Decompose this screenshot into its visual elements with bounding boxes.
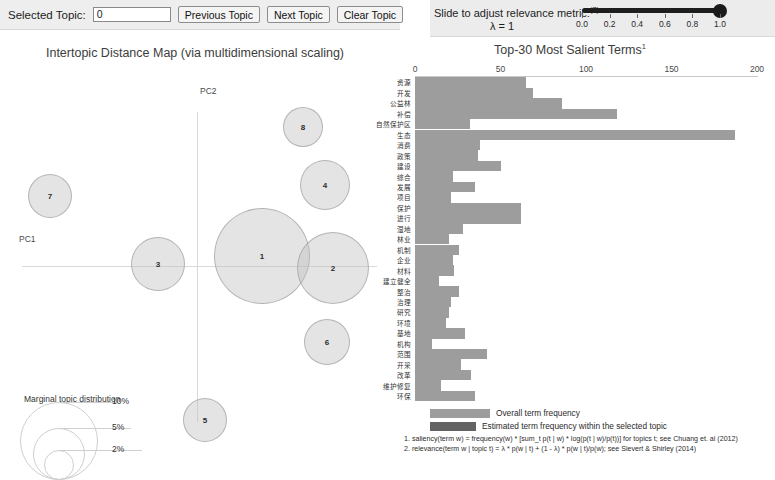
term-label[interactable]: 进行: [397, 213, 411, 223]
term-label[interactable]: 建立健全: [383, 276, 411, 286]
bar-chart-row[interactable]: 整治: [415, 286, 757, 296]
term-label[interactable]: 保护: [397, 203, 411, 213]
topic-bubble-label: 2: [298, 264, 368, 273]
bar-chart-row[interactable]: 湿地: [415, 224, 757, 234]
bar-overall-frequency: [415, 203, 521, 213]
slider-tick-mark: [610, 14, 611, 18]
term-label[interactable]: 综合: [397, 172, 411, 182]
bar-chart-row[interactable]: 机构: [415, 339, 757, 349]
term-label[interactable]: 材料: [397, 266, 411, 276]
marginal-ring-leader: [58, 402, 118, 403]
bar-chart-row[interactable]: 建立健全: [415, 276, 757, 286]
topic-bubble-8[interactable]: 8: [283, 107, 323, 147]
bar-chart-row[interactable]: 发展: [415, 182, 757, 192]
bar-overall-frequency: [415, 234, 449, 244]
bar-chart-row[interactable]: 改革: [415, 370, 757, 380]
marginal-size-label: 2%: [112, 444, 124, 454]
term-label[interactable]: 资源: [397, 77, 411, 87]
bar-chart-row[interactable]: 环境: [415, 318, 757, 328]
term-label[interactable]: 消费: [397, 140, 411, 150]
bar-chart-row[interactable]: 补偿: [415, 109, 757, 119]
clear-topic-button[interactable]: Clear Topic: [337, 6, 403, 23]
term-label[interactable]: 治理: [397, 297, 411, 307]
bar-chart-row[interactable]: 资源: [415, 77, 757, 87]
bar-chart-row[interactable]: 治理: [415, 297, 757, 307]
bar-overall-frequency: [415, 380, 441, 390]
topic-bubble-5[interactable]: 5: [183, 398, 227, 442]
bar-chart-row[interactable]: 基地: [415, 328, 757, 338]
term-label[interactable]: 改革: [397, 370, 411, 380]
x-axis-tick-label: 50: [496, 64, 505, 74]
bar-overall-frequency: [415, 328, 465, 338]
term-label[interactable]: 生态: [397, 130, 411, 140]
term-label[interactable]: 林业: [397, 234, 411, 244]
topic-bubble-label: 1: [215, 252, 309, 261]
selected-topic-input[interactable]: [93, 7, 171, 22]
bar-overall-frequency: [415, 161, 501, 171]
term-label[interactable]: 基地: [397, 328, 411, 338]
bar-overall-frequency: [415, 182, 475, 192]
bar-overall-frequency: [415, 359, 461, 369]
bar-overall-frequency: [415, 109, 617, 119]
bar-chart-row[interactable]: 项目: [415, 192, 757, 202]
bar-chart-row[interactable]: 自然保护区: [415, 119, 757, 129]
slider-tick-label: 0.2: [604, 19, 616, 29]
bar-chart-row[interactable]: 进行: [415, 213, 757, 223]
term-label[interactable]: 政策: [397, 151, 411, 161]
term-label[interactable]: 项目: [397, 192, 411, 202]
footnote-saliency: 1. saliency(term w) = frequency(w) * [su…: [404, 434, 774, 444]
topic-bubble-label: 6: [305, 338, 349, 347]
term-label[interactable]: 机构: [397, 339, 411, 349]
bar-chart-plot-area: 050100150200资源开发公益林补偿自然保护区生态消费政策建设综合发展项目…: [415, 76, 757, 400]
term-label[interactable]: 自然保护区: [376, 119, 411, 129]
x-axis-tick-label: 0: [413, 64, 418, 74]
bar-overall-frequency: [415, 245, 459, 255]
bar-chart-row[interactable]: 林业: [415, 234, 757, 244]
x-axis-tick-label: 150: [664, 64, 678, 74]
bar-chart-row[interactable]: 维护修复: [415, 380, 757, 390]
bar-chart-row[interactable]: 机制: [415, 245, 757, 255]
term-label[interactable]: 补偿: [397, 109, 411, 119]
next-topic-button[interactable]: Next Topic: [267, 6, 330, 23]
bar-overall-frequency: [415, 265, 454, 275]
term-label[interactable]: 维护修复: [383, 381, 411, 391]
term-label[interactable]: 机制: [397, 245, 411, 255]
term-label[interactable]: 开采: [397, 360, 411, 370]
bar-chart-row[interactable]: 开采: [415, 359, 757, 369]
term-label[interactable]: 建设: [397, 161, 411, 171]
topic-bubble-6[interactable]: 6: [304, 319, 350, 365]
term-label[interactable]: 发展: [397, 182, 411, 192]
topic-bubble-4[interactable]: 4: [300, 160, 350, 210]
relevance-metric-text: Slide to adjust relevance metric:: [434, 7, 590, 19]
bar-chart-row[interactable]: 生态: [415, 130, 757, 140]
bar-overall-frequency: [415, 224, 463, 234]
bar-chart-row[interactable]: 政策: [415, 150, 757, 160]
term-label[interactable]: 范围: [397, 349, 411, 359]
bar-chart-row[interactable]: 企业: [415, 255, 757, 265]
bar-chart-row[interactable]: 开发: [415, 88, 757, 98]
relevance-slider-track[interactable]: [582, 8, 722, 13]
term-label[interactable]: 企业: [397, 255, 411, 265]
bar-chart-row[interactable]: 综合: [415, 171, 757, 181]
bar-chart-row[interactable]: 环保: [415, 391, 757, 401]
term-label[interactable]: 研究: [397, 307, 411, 317]
term-label[interactable]: 环保: [397, 391, 411, 401]
bar-chart-row[interactable]: 保护: [415, 203, 757, 213]
bar-chart-row[interactable]: 公益林: [415, 98, 757, 108]
bar-chart-row[interactable]: 建设: [415, 161, 757, 171]
term-label[interactable]: 湿地: [397, 224, 411, 234]
term-label[interactable]: 整治: [397, 287, 411, 297]
bar-chart-row[interactable]: 研究: [415, 307, 757, 317]
term-label[interactable]: 环境: [397, 318, 411, 328]
slider-tick-label: 1.0: [714, 19, 726, 29]
term-label[interactable]: 公益林: [390, 98, 411, 108]
topic-bubble-3[interactable]: 3: [131, 237, 185, 291]
topic-bubble-1[interactable]: 1: [214, 208, 310, 304]
topic-bubble-7[interactable]: 7: [28, 174, 72, 218]
term-label[interactable]: 开发: [397, 88, 411, 98]
topic-bubble-2[interactable]: 2: [297, 232, 369, 304]
bar-chart-row[interactable]: 范围: [415, 349, 757, 359]
previous-topic-button[interactable]: Previous Topic: [178, 6, 260, 23]
bar-chart-row[interactable]: 材料: [415, 265, 757, 275]
bar-chart-row[interactable]: 消费: [415, 140, 757, 150]
